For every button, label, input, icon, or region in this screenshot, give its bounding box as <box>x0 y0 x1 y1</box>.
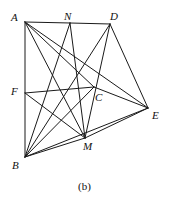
vertex-label-D: D <box>110 11 118 22</box>
vertex-label-M: M <box>83 141 92 152</box>
edge-ND <box>70 23 110 24</box>
edge-NM <box>70 23 85 138</box>
edge-DM <box>85 24 110 138</box>
vertex-label-F: F <box>11 86 18 97</box>
vertex-label-C: C <box>95 92 102 103</box>
vertex-label-N: N <box>64 11 71 22</box>
vertex-label-B: B <box>12 160 19 171</box>
figure-caption: (b) <box>0 181 169 192</box>
geometry-canvas <box>0 0 169 202</box>
vertex-label-A: A <box>11 12 18 23</box>
edge-AM <box>25 22 85 138</box>
edge-ME <box>85 108 148 138</box>
edge-AN <box>25 22 70 23</box>
vertex-label-E: E <box>152 110 159 121</box>
geometric-figure: ANDFCEMB (b) <box>0 0 169 202</box>
edge-group <box>25 22 148 157</box>
